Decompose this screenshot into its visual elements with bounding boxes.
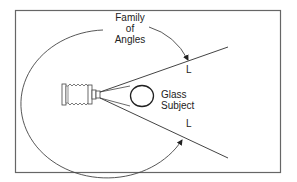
upper-light-ray — [100, 47, 228, 92]
family-of-angles-arc-lower — [21, 30, 182, 178]
lower-point-label: L — [186, 118, 192, 129]
family-label-line3: Angles — [115, 34, 146, 45]
family-label-line1: Family — [115, 12, 144, 23]
upper-point-label: L — [186, 64, 192, 75]
family-label-line2: of — [126, 23, 135, 34]
glass-subject-icon — [131, 86, 154, 107]
diagram-canvas: Family of Angles Glass Subject L L — [0, 0, 297, 182]
family-of-angles-arc-upper — [149, 27, 188, 60]
glass-label-line2: Subject — [161, 100, 195, 111]
family-of-angles-diagram: Family of Angles Glass Subject L L — [0, 0, 297, 182]
camera-icon — [62, 84, 100, 105]
glass-label-line1: Glass — [161, 89, 187, 100]
